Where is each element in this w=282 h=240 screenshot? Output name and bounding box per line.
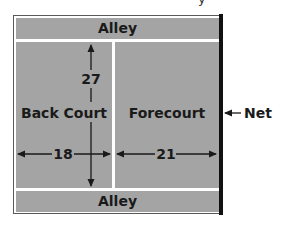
back-court-label: Back Court: [16, 105, 112, 121]
forecourt-label: Forecourt: [115, 105, 219, 121]
net-label: Net: [244, 105, 272, 121]
top-alley-label: Alley: [16, 20, 219, 36]
forecourt-width-label: 21: [155, 146, 177, 162]
back-court-width-label: 18: [52, 146, 74, 162]
length-dimension-label: 27: [80, 71, 102, 87]
bottom-alley-label: Alley: [16, 193, 219, 209]
